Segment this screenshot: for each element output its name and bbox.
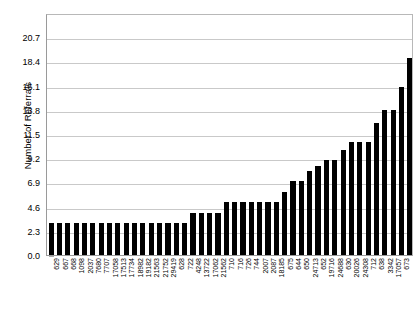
bar (274, 202, 279, 255)
x-tick-label: 21563 (153, 258, 160, 277)
x-tick-label: 13722 (203, 258, 210, 277)
y-tick-label: 6.9 (8, 178, 40, 188)
x-tick-label: 650 (303, 258, 310, 270)
x-tick-label: 668 (70, 258, 77, 270)
x-tick-label: 630 (345, 258, 352, 270)
bar (49, 223, 54, 255)
bar (232, 202, 237, 255)
x-tick-label: 17513 (120, 258, 127, 277)
x-tick-label: 675 (287, 258, 294, 270)
bar (190, 213, 195, 255)
bar (240, 202, 245, 255)
bar (315, 166, 320, 255)
bar (324, 160, 329, 255)
x-tick-label: 644 (295, 258, 302, 270)
bar-chart: Number of Referrals 0.02.34.66.99.211.51… (0, 0, 419, 316)
bar (165, 223, 170, 255)
y-tick-label: 2.3 (8, 227, 40, 237)
x-tick-label: 2087 (270, 258, 277, 274)
x-tick-label: 673 (403, 258, 410, 270)
y-axis-tick-labels: 0.02.34.66.99.211.513.816.118.420.7 (8, 14, 40, 256)
bar (82, 223, 87, 255)
bar (124, 223, 129, 255)
bar (282, 192, 287, 255)
y-tick-label: 20.7 (8, 33, 40, 43)
y-tick-label: 0.0 (8, 251, 40, 261)
y-tick-label: 4.6 (8, 203, 40, 213)
x-tick-label: 629 (53, 258, 60, 270)
bar (249, 202, 254, 255)
bar (115, 223, 120, 255)
bar (207, 213, 212, 255)
x-tick-label: 744 (253, 258, 260, 270)
bar (65, 223, 70, 255)
y-tick-label: 16.1 (8, 82, 40, 92)
x-tick-label: 21752 (162, 258, 169, 277)
bar (374, 123, 379, 255)
bar (107, 223, 112, 255)
bar (99, 223, 104, 255)
x-tick-label: 7707 (103, 258, 110, 274)
bar (307, 171, 312, 255)
bar (299, 181, 304, 255)
x-tick-label: 1098 (78, 258, 85, 274)
y-tick-label: 9.2 (8, 154, 40, 164)
x-tick-label: 722 (187, 258, 194, 270)
y-tick-label: 18.4 (8, 57, 40, 67)
x-tick-label: 17062 (212, 258, 219, 277)
bar (407, 58, 412, 255)
bar (157, 223, 162, 255)
bar (224, 202, 229, 255)
x-tick-label: 3342 (387, 258, 394, 274)
bar (399, 87, 404, 255)
bar (265, 202, 270, 255)
bar (341, 150, 346, 255)
bars-layer (47, 15, 412, 255)
bar (357, 142, 362, 255)
bar (215, 213, 220, 255)
x-tick-label: 7680 (95, 258, 102, 274)
bar (57, 223, 62, 255)
x-tick-label: 4248 (195, 258, 202, 274)
x-tick-label: 17734 (128, 258, 135, 277)
bar (90, 223, 95, 255)
bar (199, 213, 204, 255)
x-tick-label: 24308 (362, 258, 369, 277)
y-tick-label: 13.8 (8, 106, 40, 116)
y-tick-label: 11.5 (8, 130, 40, 140)
x-tick-label: 29419 (170, 258, 177, 277)
x-tick-label: 21562 (220, 258, 227, 277)
bar (149, 223, 154, 255)
x-tick-label: 2037 (87, 258, 94, 274)
plot-area (46, 14, 413, 256)
x-tick-label: 17057 (395, 258, 402, 277)
x-tick-label: 24713 (312, 258, 319, 277)
bar (332, 160, 337, 255)
x-tick-label: 628 (178, 258, 185, 270)
bar (74, 223, 79, 255)
bar (140, 223, 145, 255)
bar (174, 223, 179, 255)
x-tick-label: 17058 (112, 258, 119, 277)
x-tick-label: 667 (62, 258, 69, 270)
bar (132, 223, 137, 255)
bar (349, 142, 354, 255)
bar (382, 110, 387, 255)
x-tick-label: 2007 (262, 258, 269, 274)
bar (290, 181, 295, 255)
x-axis-tick-labels: 6296676681098203776807707170581751317734… (46, 258, 413, 316)
x-tick-label: 726 (245, 258, 252, 270)
x-tick-label: 19182 (145, 258, 152, 277)
x-tick-label: 19716 (328, 258, 335, 277)
bar (366, 142, 371, 255)
x-tick-label: 18982 (137, 258, 144, 277)
x-tick-label: 24688 (337, 258, 344, 277)
x-tick-label: 712 (370, 258, 377, 270)
x-tick-label: 716 (237, 258, 244, 270)
x-tick-label: 652 (320, 258, 327, 270)
bar (257, 202, 262, 255)
x-tick-label: 20026 (353, 258, 360, 277)
bar (391, 110, 396, 255)
x-tick-label: 710 (228, 258, 235, 270)
x-tick-label: 638 (378, 258, 385, 270)
